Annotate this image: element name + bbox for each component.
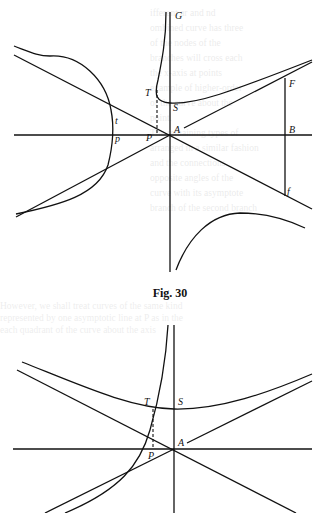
asymptote-ascending-left [45, 449, 174, 513]
lower-right-branch-curve [176, 213, 305, 270]
label-B: B [289, 124, 295, 135]
asymptote-ascending-left [16, 135, 170, 217]
asymptote-descending [17, 370, 296, 513]
figure-31: T S A P [13, 325, 312, 513]
label-S: S [173, 102, 178, 113]
label-A: A [173, 124, 181, 135]
label-P: P [145, 132, 152, 143]
label-F: F [288, 78, 296, 89]
label-G: G [175, 10, 182, 21]
label-f: f [287, 186, 291, 197]
label-S: S [178, 396, 183, 407]
label-T: T [145, 87, 152, 98]
upper-branch-curve [156, 12, 312, 103]
figure-caption: Fig. 30 [153, 286, 188, 300]
left-branch-curve [14, 46, 113, 214]
label-t: t [115, 115, 118, 126]
figure-30: G T S F t p P A B f Fig. 30 [14, 10, 312, 300]
figures-canvas: G T S F t p P A B f Fig. 30 T S A P [0, 0, 323, 513]
asymptote-descending [14, 55, 312, 209]
asymptote-ascending-right [187, 381, 312, 443]
asymptote-ascending-right [184, 62, 312, 128]
label-T: T [144, 396, 151, 407]
label-p: p [114, 133, 120, 144]
label-A: A [177, 437, 185, 448]
label-P: P [147, 450, 154, 461]
